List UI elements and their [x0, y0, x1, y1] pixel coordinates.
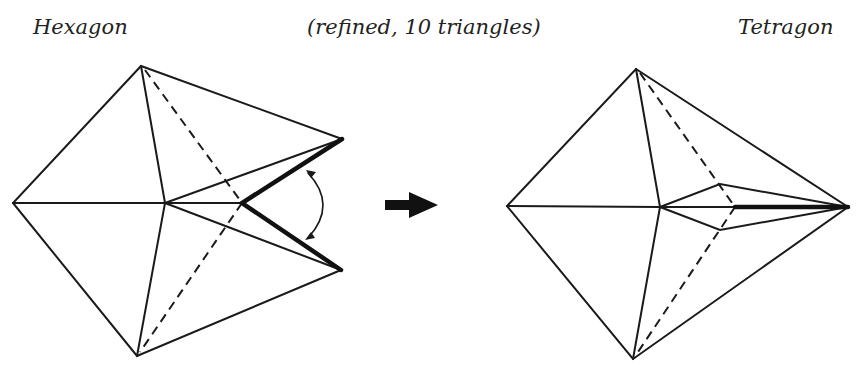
hexagon-outline: [13, 66, 342, 356]
spoke-top: [141, 66, 165, 203]
dashed-diagonal-top: [640, 73, 735, 207]
inner-upper-edge: [660, 184, 848, 207]
transition-arrow-icon: [385, 192, 438, 218]
rotation-arrowhead-bottom-icon: [305, 232, 315, 240]
diagram-canvas: [0, 0, 856, 369]
spoke-bottom: [137, 203, 165, 356]
tetragon-figure: [507, 69, 848, 359]
spoke-bottom: [633, 207, 660, 359]
rotation-arrow-icon: [308, 173, 323, 238]
spoke-left: [507, 206, 660, 207]
spoke-top: [636, 69, 660, 207]
dashed-diagonal-top: [145, 70, 242, 203]
rotation-arrowhead-top-icon: [306, 170, 316, 178]
dashed-diagonal-bottom: [140, 203, 242, 352]
hexagon-figure: [13, 66, 342, 356]
